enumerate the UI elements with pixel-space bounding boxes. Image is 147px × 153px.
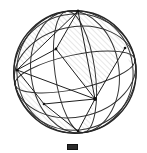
figure-root [0, 0, 147, 153]
vertex-right [124, 47, 127, 50]
sphere-diagram [0, 0, 147, 153]
vertex-hub [93, 97, 97, 101]
vertex-bottom [77, 130, 80, 133]
figure-caption [0, 144, 147, 153]
vertex-mid-lower [43, 103, 46, 106]
vertex-top-pole [76, 9, 79, 12]
figure-number-block [67, 144, 78, 150]
vertex-mid-upper [55, 48, 58, 51]
vertex-left [15, 68, 18, 71]
